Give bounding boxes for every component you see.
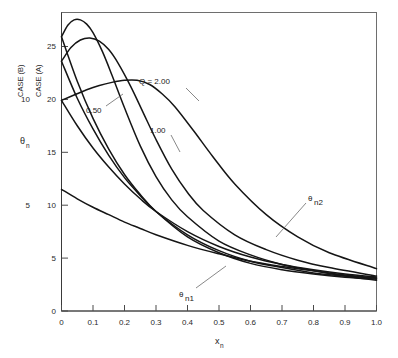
annotation-q-0-50-text: 0.50 xyxy=(86,106,102,115)
annotation-theta-n1-text: θ xyxy=(179,290,184,299)
x-axis-title: x n xyxy=(215,336,224,349)
y-axis-ticks xyxy=(62,47,69,312)
x-tick-label-10: 1.0 xyxy=(371,318,383,327)
annotation-q-2-00-text: Q = 2.00 xyxy=(139,77,170,86)
y-axis-title-sub: n xyxy=(26,142,30,149)
curve-theta_n1-3 xyxy=(62,37,377,279)
x-axis-ticks xyxy=(62,305,377,311)
annotation-q-2-00: Q = 2.00 xyxy=(139,77,199,101)
y-tick-label-25: 25 xyxy=(47,42,56,51)
x-tick-labels: 0 0.1 0.2 0.3 0.4 0.5 0.6 0.7 0.8 0.9 1.… xyxy=(59,318,382,327)
y-tick-label-0: 0 xyxy=(52,307,57,316)
y-tick-label-5: 5 xyxy=(52,254,57,263)
annotation-q-1-00-text: 1.00 xyxy=(150,126,166,135)
annotation-theta-n1: θ n1 xyxy=(179,266,226,303)
x-tick-label-3: 0.3 xyxy=(150,318,162,327)
case-a-caption: CASE (A) xyxy=(34,64,43,97)
annotation-q-0-50: 0.50 xyxy=(86,94,123,115)
y-tick-label-20: 20 xyxy=(47,95,56,104)
y-secondary-tick-labels: 5 10 xyxy=(21,95,30,210)
annotation-q-1-00: 1.00 xyxy=(150,126,180,152)
y-tick-label-15: 15 xyxy=(47,148,56,157)
curve-group xyxy=(62,19,377,280)
chart-figure: 0 5 10 15 20 25 5 10 CASE (A) CASE (B) θ… xyxy=(0,0,398,358)
x-tick-label-7: 0.7 xyxy=(276,318,288,327)
x-tick-label-1: 0.1 xyxy=(87,318,99,327)
annotation-theta-n2: θ n2 xyxy=(276,194,323,237)
y2-tick-label-5: 5 xyxy=(26,201,31,210)
chart-svg: 0 5 10 15 20 25 5 10 CASE (A) CASE (B) θ… xyxy=(0,0,398,358)
curve-theta_n1-6 xyxy=(62,189,377,278)
x-tick-label-4: 0.4 xyxy=(182,318,194,327)
annotation-theta-n2-sub: n2 xyxy=(314,198,323,207)
annotation-theta-n2-text: θ xyxy=(308,194,313,203)
plot-frame xyxy=(62,13,377,312)
x-axis-title-sub: n xyxy=(220,342,224,349)
y-axis-title: θ n xyxy=(20,136,30,149)
case-b-caption: CASE (B) xyxy=(16,64,25,97)
x-tick-label-9: 0.9 xyxy=(339,318,351,327)
y-axis-title-main: θ xyxy=(20,136,25,146)
x-tick-label-5: 0.5 xyxy=(213,318,225,327)
annotation-theta-n1-sub: n1 xyxy=(185,294,194,303)
y-tick-label-10: 10 xyxy=(47,201,56,210)
x-tick-label-6: 0.6 xyxy=(245,318,257,327)
x-tick-label-0: 0 xyxy=(59,318,64,327)
y-tick-labels: 0 5 10 15 20 25 xyxy=(47,42,56,316)
x-tick-label-8: 0.8 xyxy=(308,318,320,327)
x-tick-label-2: 0.2 xyxy=(119,318,131,327)
